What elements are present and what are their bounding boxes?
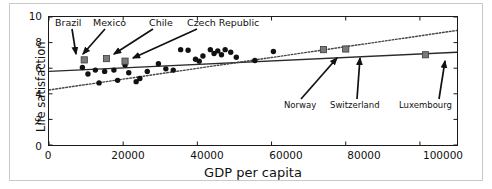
data-point: [111, 67, 116, 72]
y-tick-label-0: 0: [14, 141, 42, 152]
figure-container: Life satisfaction 10 8 6 4 2 0 0 20000 4…: [0, 0, 492, 189]
annotation-arrow-switzerland: [357, 58, 360, 99]
annotation-label-switzerland: Switzerland: [330, 101, 380, 110]
highlighted-point-mexico: [103, 56, 109, 62]
y-tick-label-8: 8: [14, 37, 42, 48]
data-point: [145, 69, 150, 74]
highlighted-point-norway: [320, 47, 326, 53]
annotation-label-chile: Chile: [149, 18, 173, 28]
x-tick-label-60000: 60000: [269, 150, 302, 161]
data-point: [163, 66, 168, 71]
data-point: [115, 78, 120, 83]
annotation-arrow-brazil: [72, 29, 76, 54]
data-point: [234, 55, 239, 60]
annotation-arrow-mexico: [83, 29, 105, 54]
data-point: [137, 76, 142, 81]
plot-area: [48, 16, 458, 146]
annotation-arrow-czech-republic: [133, 29, 197, 58]
data-point: [219, 52, 224, 57]
x-axis-label: GDP per capita: [48, 166, 458, 179]
data-point: [271, 49, 276, 54]
data-point: [185, 48, 190, 53]
annotation-label-czech-republic: Czech Republic: [187, 18, 259, 28]
scatter-plot-svg: [49, 17, 457, 145]
annotation-arrow-luxembourg: [439, 61, 445, 99]
data-point: [102, 69, 107, 74]
annotation-label-mexico: Mexico: [93, 18, 126, 28]
highlighted-point-switzerland: [343, 46, 349, 52]
data-point: [85, 71, 90, 76]
annotation-label-brazil: Brazil: [55, 18, 82, 28]
y-tick-label-4: 4: [14, 89, 42, 100]
data-point: [252, 58, 257, 63]
data-point: [126, 70, 131, 75]
data-point: [171, 67, 176, 72]
highlighted-point-brazil: [81, 57, 87, 63]
data-point: [200, 53, 205, 58]
x-tick-label-40000: 40000: [190, 150, 223, 161]
y-tick-label-10: 10: [14, 11, 42, 22]
data-point: [178, 47, 183, 52]
data-point: [93, 67, 98, 72]
highlighted-point-luxembourg: [422, 52, 428, 58]
annotation-arrow-norway: [301, 58, 337, 99]
x-tick-label-20000: 20000: [111, 150, 144, 161]
data-points-group: [80, 47, 276, 86]
annotation-label-norway: Norway: [284, 101, 316, 110]
y-tick-label-6: 6: [14, 63, 42, 74]
x-tick-label-100000: 100000: [423, 150, 463, 161]
annotation-label-luxembourg: Luxembourg: [399, 101, 452, 110]
data-point: [96, 80, 101, 85]
data-point: [197, 58, 202, 63]
data-point: [156, 61, 161, 66]
data-point: [222, 47, 227, 52]
y-tick-label-2: 2: [14, 115, 42, 126]
x-tick-label-0: 0: [45, 150, 52, 161]
data-point: [228, 50, 233, 55]
x-tick-label-80000: 80000: [347, 150, 380, 161]
data-point: [80, 65, 85, 70]
annotation-arrow-chile: [114, 29, 153, 54]
highlighted-point-chile: [122, 58, 128, 64]
